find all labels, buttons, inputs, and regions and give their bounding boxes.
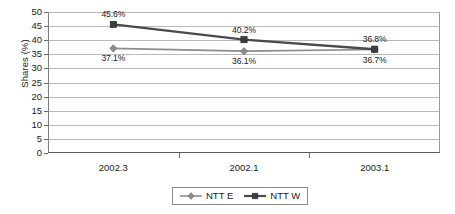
- data-point-label: 36.1%: [214, 56, 274, 66]
- legend-label-ntt-w: NTT W: [270, 191, 300, 201]
- y-tick-mark: [44, 111, 48, 112]
- x-tick-label: 2002.3: [68, 162, 158, 173]
- x-tick-mark: [179, 153, 180, 158]
- y-tick-mark: [44, 153, 48, 154]
- y-tick-mark: [44, 26, 48, 27]
- square-marker-icon: [244, 191, 266, 201]
- legend-label-ntt-e: NTT E: [206, 191, 233, 201]
- data-point-label: 36.7%: [345, 55, 405, 65]
- gridline: [49, 139, 439, 140]
- y-tick-label: 5: [0, 134, 42, 143]
- y-tick-label: 20: [0, 92, 42, 101]
- y-tick-label: 40: [0, 35, 42, 44]
- y-tick-mark: [44, 12, 48, 13]
- y-tick-mark: [44, 125, 48, 126]
- data-point-label: 40.2%: [214, 25, 274, 35]
- data-point-label: 37.1%: [83, 53, 143, 63]
- x-tick-label: 2002.1: [199, 162, 289, 173]
- gridline: [49, 111, 439, 112]
- legend-item-ntt-e[interactable]: NTT E: [180, 191, 233, 201]
- y-tick-label: 15: [0, 106, 42, 115]
- y-tick-label: 50: [0, 7, 42, 16]
- y-tick-mark: [44, 83, 48, 84]
- gridline: [49, 125, 439, 126]
- y-tick-mark: [44, 139, 48, 140]
- x-tick-mark: [309, 153, 310, 158]
- chart-legend: NTT E NTT W: [172, 187, 308, 205]
- legend-item-ntt-w[interactable]: NTT W: [244, 191, 300, 201]
- y-tick-mark: [44, 40, 48, 41]
- y-tick-label: 25: [0, 78, 42, 87]
- gridline: [49, 83, 439, 84]
- y-tick-label: 45: [0, 21, 42, 30]
- line-chart: Shares (%) 50454035302520151050 2002.320…: [0, 0, 455, 214]
- y-tick-label: 0: [0, 148, 42, 157]
- y-tick-mark: [44, 54, 48, 55]
- y-tick-label: 30: [0, 63, 42, 72]
- data-point-label: 45.6%: [83, 9, 143, 19]
- y-tick-label: 35: [0, 49, 42, 58]
- y-tick-mark: [44, 68, 48, 69]
- y-tick-label: 10: [0, 120, 42, 129]
- y-tick-mark: [44, 97, 48, 98]
- gridline: [49, 97, 439, 98]
- diamond-marker-icon: [180, 191, 202, 201]
- data-point-label: 36.8%: [345, 34, 405, 44]
- x-tick-label: 2003.1: [330, 162, 420, 173]
- gridline: [49, 68, 439, 69]
